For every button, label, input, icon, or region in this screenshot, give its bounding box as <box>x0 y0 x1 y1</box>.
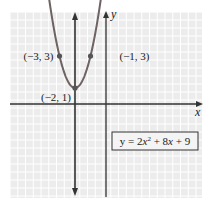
data-point <box>88 53 93 58</box>
data-point <box>57 53 62 58</box>
point-label: (−1, 3) <box>120 50 150 63</box>
point-label: (−3, 3) <box>23 50 53 63</box>
parabola-chart: x y (−3, 3)(−2, 1)(−1, 3) y = 2x2 + 8x +… <box>0 0 211 208</box>
point-label: (−2, 1) <box>41 91 71 104</box>
data-point <box>72 85 77 90</box>
x-axis-label: x <box>194 105 201 119</box>
y-axis-label: y <box>110 7 117 21</box>
equation-box: y = 2x2 + 8x + 9 <box>112 132 198 150</box>
svg-text:y = 2x2 + 8x + 9: y = 2x2 + 8x + 9 <box>120 135 191 147</box>
